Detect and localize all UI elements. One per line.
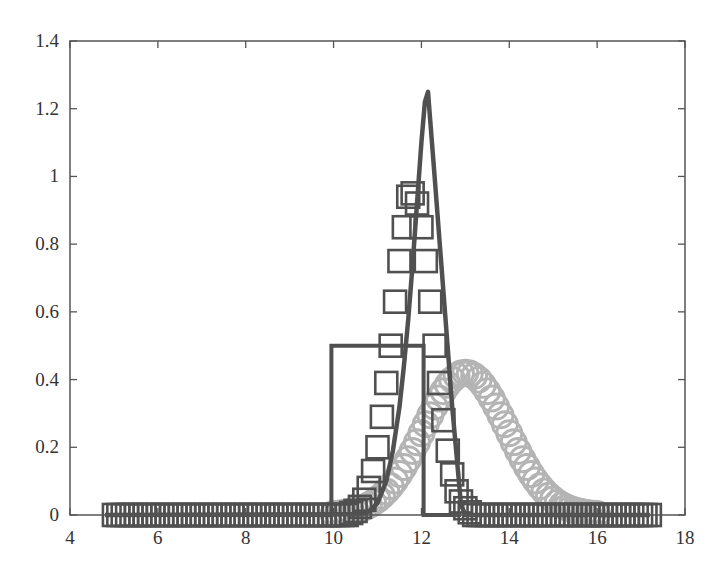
- square-marker: [375, 372, 397, 394]
- axes-frame: [70, 41, 685, 515]
- square-marker: [419, 291, 441, 313]
- x-tick-label: 14: [500, 527, 520, 548]
- series-square-markers: [103, 182, 661, 526]
- square-marker: [415, 250, 437, 272]
- x-tick-label: 4: [65, 527, 75, 548]
- x-tick-label: 12: [412, 527, 431, 548]
- series-uniform-box: [105, 346, 461, 515]
- x-tick-label: 10: [324, 527, 343, 548]
- square-marker: [371, 406, 393, 428]
- y-axis-tick-labels: 00.20.40.60.811.21.4: [35, 30, 59, 525]
- x-axis-tick-labels: 4681012141618: [65, 527, 694, 548]
- y-tick-label: 1: [50, 165, 60, 186]
- y-tick-label: 1.2: [35, 98, 59, 119]
- y-tick-label: 0: [50, 504, 60, 525]
- y-tick-label: 0.8: [35, 233, 59, 254]
- y-tick-label: 1.4: [35, 30, 59, 51]
- square-marker: [384, 291, 406, 313]
- plot-area: [103, 92, 661, 527]
- chart: 4681012141618 00.20.40.60.811.21.4: [0, 0, 722, 576]
- axis-ticks: [70, 41, 685, 515]
- y-tick-label: 0.2: [35, 436, 59, 457]
- square-marker: [367, 436, 389, 458]
- square-marker: [388, 250, 410, 272]
- series-peaked-curve: [105, 92, 650, 515]
- x-tick-label: 16: [588, 527, 607, 548]
- x-tick-label: 6: [153, 527, 163, 548]
- square-marker: [424, 335, 446, 357]
- x-tick-label: 18: [676, 527, 695, 548]
- x-tick-label: 8: [241, 527, 251, 548]
- y-tick-label: 0.6: [35, 301, 59, 322]
- y-tick-label: 0.4: [35, 369, 59, 390]
